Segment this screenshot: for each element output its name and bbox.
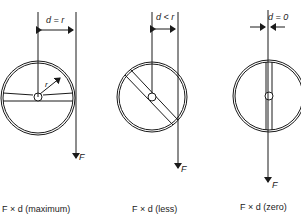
wheel-zero (233, 10, 301, 182)
radius-label: r (45, 80, 48, 89)
dim-label-less: d < r (156, 12, 174, 22)
dim-label-zero: d = 0 (268, 12, 288, 22)
wheel-max (1, 12, 76, 158)
force-label-zero: F (272, 180, 278, 190)
dim-label-max: d = r (46, 15, 64, 25)
wheel-less (117, 12, 187, 168)
caption-less: F × d (less) (132, 204, 177, 214)
caption-zero: F × d (zero) (240, 202, 287, 212)
caption-max: F × d (maximum) (2, 204, 70, 214)
force-label-less: F (181, 164, 187, 174)
torque-diagrams (0, 0, 301, 217)
force-label-max: F (79, 152, 85, 162)
